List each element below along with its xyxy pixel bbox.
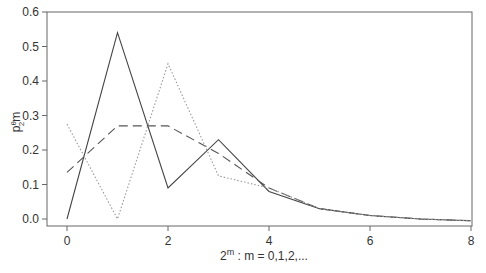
x-axis: 02468 [64,226,475,248]
y-tick-label: 0.4 [22,74,39,88]
series-dotted-line [67,64,471,221]
series-solid-line [67,33,471,221]
y-tick-label: 0.2 [22,143,39,157]
x-tick-label: 0 [64,234,71,248]
x-tick-label: 6 [367,234,374,248]
y-tick-label: 0.3 [22,109,39,123]
x-tick-label: 4 [266,234,273,248]
x-tick-label: 8 [468,234,475,248]
x-tick-label: 2 [165,234,172,248]
x-axis-label: 2m : m = 0,1,2,... [220,247,308,263]
y-tick-label: 0.0 [22,212,39,226]
data-series [67,33,471,221]
series-dashed-line [67,126,471,221]
y-axis: 0.00.10.20.30.40.50.6 [22,5,47,226]
plot-frame [47,12,472,226]
y-tick-label: 0.5 [22,40,39,54]
y-tick-label: 0.1 [22,178,39,192]
y-tick-label: 0.6 [22,5,39,19]
line-chart: 0.00.10.20.30.40.50.6 02468 2m : m = 0,1… [0,0,486,273]
